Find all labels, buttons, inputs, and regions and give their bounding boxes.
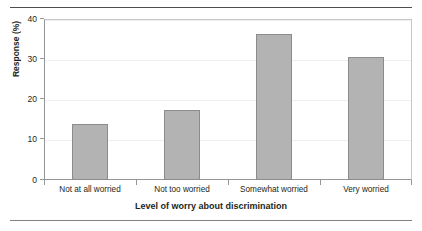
x-tick-label: Somewhat worried — [228, 185, 320, 194]
y-tick-label-40: 40 — [28, 12, 37, 26]
bar-slot — [44, 19, 136, 180]
bar — [256, 34, 292, 180]
y-axis-title: Response (%) — [11, 0, 21, 109]
y-tick-label-10: 10 — [28, 132, 37, 146]
bar-slot — [136, 19, 228, 180]
bar-slot — [320, 19, 412, 180]
figure: 40 30 20 10 0 Response (%) — [0, 0, 422, 231]
x-tick-label: Not too worried — [136, 185, 228, 194]
bar — [72, 124, 108, 180]
bar-series — [44, 19, 412, 180]
bar-slot — [228, 19, 320, 180]
y-tick-label-30: 30 — [28, 52, 37, 66]
top-rule — [10, 7, 412, 8]
bar — [348, 57, 384, 180]
bottom-rule — [10, 220, 412, 221]
x-tick-label: Not at all worried — [44, 185, 136, 194]
y-tick-label-0: 0 — [32, 173, 37, 187]
x-axis-labels: Not at all worried Not too worried Somew… — [44, 185, 412, 194]
bar — [164, 110, 200, 180]
x-tick-label: Very worried — [320, 185, 412, 194]
x-axis-title: Level of worry about discrimination — [0, 201, 422, 211]
y-tick-label-20: 20 — [28, 92, 37, 106]
